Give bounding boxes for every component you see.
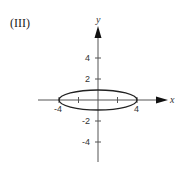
x-axis-label: x: [169, 94, 175, 105]
y-axis-arrow-icon: [95, 26, 102, 38]
y-tick-label: 2: [85, 74, 90, 84]
x-axis-arrow-icon: [156, 97, 168, 104]
y-tick-label: -4: [82, 137, 90, 147]
ellipse-plot: -4 4 4 2 -2 -4 y x: [0, 0, 184, 172]
y-tick-label: 4: [85, 53, 90, 63]
x-tick-label: 4: [134, 104, 139, 114]
y-tick-label: -2: [82, 116, 90, 126]
y-axis-label: y: [95, 14, 101, 25]
x-tick-label: -4: [54, 104, 62, 114]
